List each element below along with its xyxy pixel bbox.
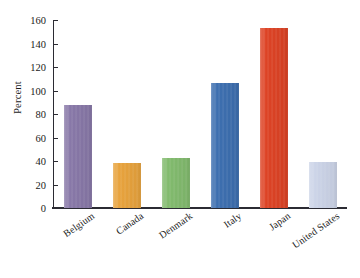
y-tick-label: 100: [30, 85, 46, 96]
y-tick-label: 40: [36, 156, 47, 167]
y-tick-label: 0: [41, 203, 46, 214]
y-tick-label: 60: [36, 132, 47, 143]
bar: [162, 158, 190, 208]
bar: [211, 83, 239, 208]
y-tick-label: 20: [36, 179, 47, 190]
x-axis-labels: BelgiumCanadaDenmarkItalyJapanUnited Sta…: [53, 210, 347, 278]
bar-shading: [64, 105, 92, 208]
y-tick-label: 80: [36, 109, 47, 120]
bar-shading: [162, 158, 190, 208]
x-tick-label: Belgium: [0, 210, 96, 278]
bar: [64, 105, 92, 208]
bar-shading: [260, 28, 288, 208]
y-tick-label: 120: [30, 62, 46, 73]
bar-chart: Percent 020406080100120140160 BelgiumCan…: [0, 0, 360, 278]
y-tick-mark: [53, 208, 58, 209]
bar: [260, 28, 288, 208]
bar: [113, 163, 141, 208]
y-axis-title: Percent: [12, 63, 23, 133]
bar-series: [53, 20, 347, 208]
bar: [309, 162, 337, 208]
bar-shading: [309, 162, 337, 208]
y-tick-label: 140: [30, 38, 46, 49]
y-tick-label: 160: [30, 15, 46, 26]
plot-area: 020406080100120140160: [53, 20, 347, 208]
bar-shading: [211, 83, 239, 208]
bar-shading: [113, 163, 141, 208]
